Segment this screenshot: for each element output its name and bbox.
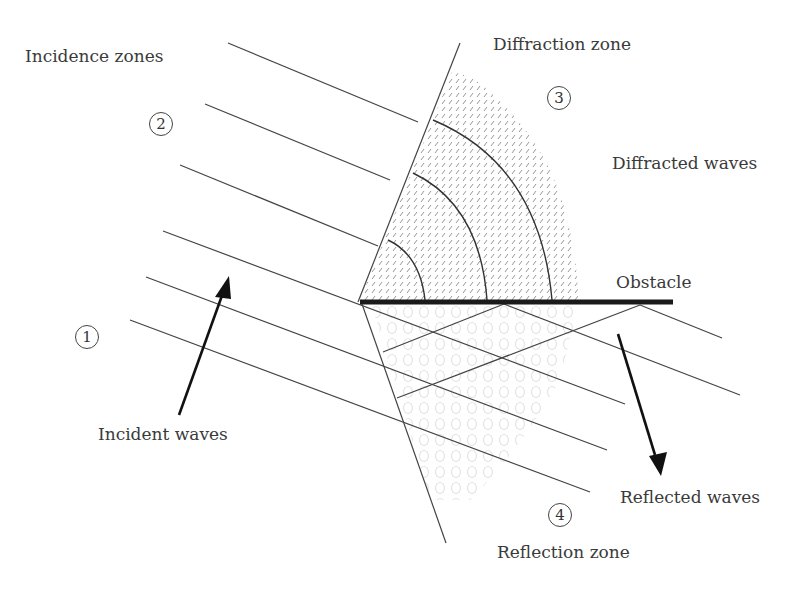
incident-arrow-icon — [179, 276, 231, 415]
diffraction-zone-area — [360, 72, 578, 300]
incidence-zones-label: Incidence zones — [25, 48, 163, 65]
diffracted-waves-label: Diffracted waves — [612, 155, 757, 172]
incident-waves-label: Incident waves — [98, 426, 228, 443]
reflected-arrow-icon — [618, 334, 667, 476]
zone-4-marker: 4 — [548, 503, 572, 527]
reflection-zone-area — [372, 306, 578, 500]
zone-3-marker: 3 — [547, 86, 571, 110]
zone-2-marker: 2 — [149, 112, 173, 136]
obstacle-label: Obstacle — [616, 274, 692, 291]
diffraction-zone-label: Diffraction zone — [493, 36, 631, 53]
reflection-zone-label: Reflection zone — [497, 544, 630, 561]
zone-1-marker: 1 — [75, 325, 99, 349]
reflected-waves-label: Reflected waves — [620, 489, 760, 506]
